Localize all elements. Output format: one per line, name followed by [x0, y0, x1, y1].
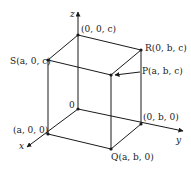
dot-0-0-c — [76, 33, 79, 36]
dot-origin — [76, 107, 79, 110]
label-a-0-0: (a, 0, 0) — [13, 125, 48, 135]
label-origin: 0 — [69, 100, 75, 110]
edge-bot-bQ — [111, 124, 141, 149]
z-axis-label: z — [69, 9, 75, 19]
dot-P — [109, 73, 112, 76]
label-P: P(a, b, c) — [142, 66, 183, 76]
label-S: S(a, 0, c) — [10, 56, 51, 66]
label-0-b-0: (0, b, 0) — [143, 112, 179, 122]
x-axis-label: x — [19, 141, 24, 151]
edge-top-SP — [48, 60, 111, 75]
dot-R — [139, 48, 142, 51]
edge-top-zS — [48, 35, 78, 60]
label-R: R(0, b, c) — [145, 43, 187, 53]
box-diagram: z y x (0, 0, c) S(a, 0, c) R(0, b, c) P(… — [0, 0, 191, 170]
edge-top-zR — [78, 35, 141, 50]
dot-0-b-0 — [139, 122, 142, 125]
p-pointer-arrow — [115, 72, 140, 75]
label-Q: Q(a, b, 0) — [111, 152, 154, 162]
y-axis-label: y — [175, 135, 182, 145]
edge-top-RP — [111, 50, 141, 75]
edge-bot-aQ — [48, 134, 111, 149]
label-0-0-c: (0, 0, c) — [81, 24, 116, 34]
dot-Q — [109, 147, 112, 150]
